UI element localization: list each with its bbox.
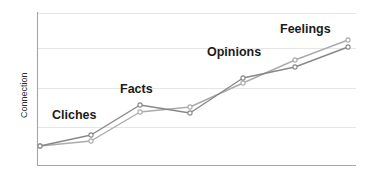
series-upper-marker xyxy=(293,65,297,69)
series-lower-marker xyxy=(138,110,142,114)
chart-figure: Connection Cliches Facts Opinions xyxy=(0,0,367,179)
series-lower-marker xyxy=(346,38,350,42)
series-upper-marker xyxy=(241,76,245,80)
annotation-opinions: Opinions xyxy=(207,45,261,59)
series-upper-marker xyxy=(346,45,350,49)
series-lower-marker xyxy=(89,139,93,143)
series-upper-marker xyxy=(138,103,142,107)
y-axis-title-label: Connection xyxy=(19,72,29,118)
y-axis-title: Connection xyxy=(19,72,29,118)
chart-canvas: Connection Cliches Facts Opinions xyxy=(0,0,367,179)
series-upper-marker xyxy=(188,111,192,115)
annotation-cliches: Cliches xyxy=(52,108,97,122)
series-upper-marker xyxy=(89,133,93,137)
annotation-feelings: Feelings xyxy=(280,22,331,36)
series-lower-marker xyxy=(293,58,297,62)
series-lower-marker xyxy=(188,105,192,109)
series-lower-marker xyxy=(241,81,245,85)
annotation-facts: Facts xyxy=(120,82,153,96)
series-upper-marker xyxy=(38,144,42,148)
